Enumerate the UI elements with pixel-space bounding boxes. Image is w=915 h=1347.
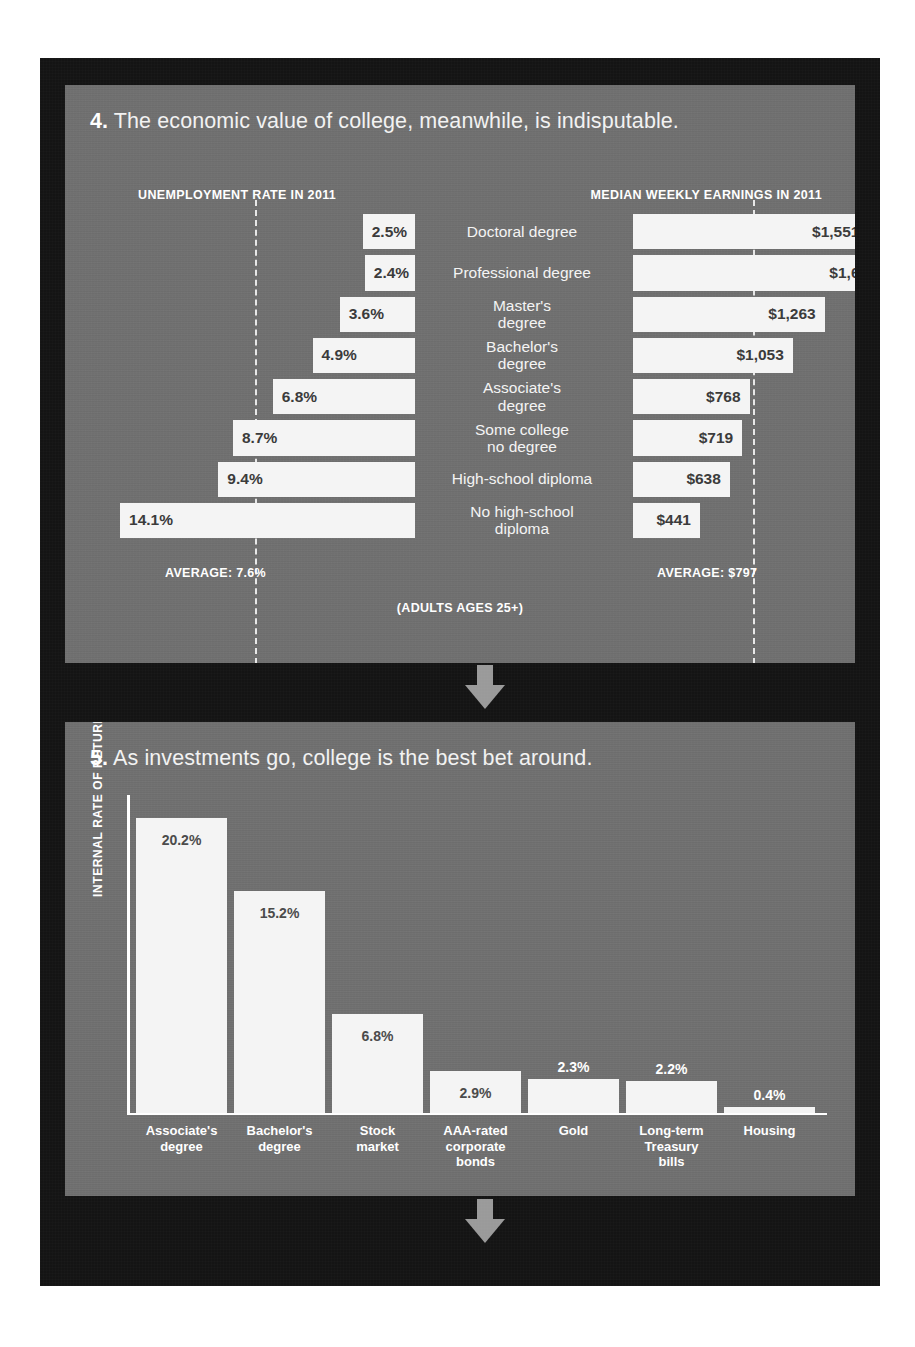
down-arrow-icon (465, 665, 505, 709)
unemployment-value: 4.9% (322, 346, 357, 364)
unemployment-value: 8.7% (242, 429, 277, 447)
chart-column: 20.2% (136, 795, 227, 1113)
x-axis-tick-label: AAA-ratedcorporatebonds (430, 1123, 521, 1170)
investment-returns-chart: 20.2%Associate'sdegree15.2%Bachelor'sdeg… (127, 795, 827, 1113)
return-value-label: 20.2% (136, 832, 227, 848)
x-axis-tick-label: Long-termTreasurybills (626, 1123, 717, 1170)
unemployment-average-label: AVERAGE: 7.6% (165, 566, 266, 580)
return-bar (528, 1079, 619, 1113)
return-value-label: 15.2% (234, 905, 325, 921)
unemployment-value: 2.5% (372, 223, 407, 241)
return-bar (724, 1107, 815, 1113)
unemployment-bar: 3.6% (340, 297, 415, 332)
education-comparison-chart: 2.5%Doctoral degree$1,5512.4%Professiona… (65, 211, 855, 541)
y-axis-line (127, 795, 130, 1113)
arrow-shaft (477, 1199, 493, 1221)
chart-row: 14.1%No high-schooldiploma$441 (65, 500, 855, 541)
earnings-value: $441 (656, 511, 690, 529)
x-axis-line (127, 1113, 827, 1115)
panel4-title: 4. The economic value of college, meanwh… (90, 109, 679, 134)
earnings-bar: $768 (633, 379, 750, 414)
return-value-label: 2.9% (430, 1085, 521, 1101)
unemployment-value: 6.8% (282, 388, 317, 406)
x-axis-tick-label: Associate'sdegree (136, 1123, 227, 1154)
category-label: Master'sdegree (415, 294, 629, 335)
earnings-column-header: MEDIAN WEEKLY EARNINGS IN 2011 (591, 188, 822, 202)
unemployment-column-header: UNEMPLOYMENT RATE IN 2011 (138, 188, 336, 202)
down-arrow-icon (465, 1199, 505, 1243)
panel-education-value: 4. The economic value of college, meanwh… (65, 85, 855, 663)
category-label: Bachelor'sdegree (415, 335, 629, 376)
return-value-label: 2.3% (528, 1059, 619, 1075)
panel4-number: 4. (90, 109, 108, 133)
earnings-bar: $638 (633, 462, 730, 497)
earnings-value: $638 (686, 470, 720, 488)
category-label: No high-schooldiploma (415, 500, 629, 541)
earnings-bar: $441 (633, 503, 700, 538)
earnings-bar: $1,263 (633, 297, 825, 332)
chart-column: 2.9% (430, 795, 521, 1113)
earnings-value: $1,053 (736, 346, 783, 364)
chart-row: 9.4%High-school diploma$638 (65, 459, 855, 500)
unemployment-value: 3.6% (349, 305, 384, 323)
chart-column: 6.8% (332, 795, 423, 1113)
earnings-bar: $719 (633, 420, 742, 455)
earnings-value: $1,551 (812, 223, 855, 241)
unemployment-bar: 6.8% (273, 379, 415, 414)
unemployment-bar: 2.4% (365, 255, 415, 290)
chart-column: 2.2% (626, 795, 717, 1113)
panel-investment-returns: 5. As investments go, college is the bes… (65, 722, 855, 1196)
panel4-footnote: (ADULTS AGES 25+) (65, 601, 855, 615)
panel5-title-text: As investments go, college is the best b… (113, 746, 592, 770)
unemployment-bar: 9.4% (218, 462, 415, 497)
return-bar (626, 1081, 717, 1113)
chart-row: 3.6%Master'sdegree$1,263 (65, 294, 855, 335)
earnings-value: $768 (706, 388, 740, 406)
category-label: High-school diploma (415, 459, 629, 500)
unemployment-value: 2.4% (374, 264, 409, 282)
category-label: Associate'sdegree (415, 376, 629, 417)
chart-row: 8.7%Some collegeno degree$719 (65, 417, 855, 458)
return-value-label: 0.4% (724, 1087, 815, 1103)
category-label: Professional degree (415, 252, 629, 293)
unemployment-bar: 14.1% (120, 503, 415, 538)
chart-column: 2.3% (528, 795, 619, 1113)
x-axis-tick-label: Bachelor'sdegree (234, 1123, 325, 1154)
chart-row: 2.4%Professional degree$1,665 (65, 252, 855, 293)
arrow-head (465, 1219, 505, 1243)
chart-row: 2.5%Doctoral degree$1,551 (65, 211, 855, 252)
earnings-bar: $1,665 (633, 255, 855, 290)
earnings-average-label: AVERAGE: $797 (657, 566, 757, 580)
arrow-head (465, 685, 505, 709)
unemployment-value: 14.1% (129, 511, 173, 529)
return-value-label: 6.8% (332, 1028, 423, 1044)
category-label: Doctoral degree (415, 211, 629, 252)
earnings-value: $1,263 (768, 305, 815, 323)
unemployment-bar: 2.5% (363, 214, 415, 249)
panel5-title: 5. As investments go, college is the bes… (90, 746, 593, 771)
unemployment-bar: 8.7% (233, 420, 415, 455)
unemployment-value: 9.4% (227, 470, 262, 488)
x-axis-tick-label: Gold (528, 1123, 619, 1139)
arrow-shaft (477, 665, 493, 687)
unemployment-bar: 4.9% (313, 338, 416, 373)
return-value-label: 2.2% (626, 1061, 717, 1077)
earnings-value: $1,665 (829, 264, 855, 282)
y-axis-label: INTERNAL RATE OF RETURN (91, 722, 105, 897)
earnings-bar: $1,551 (633, 214, 855, 249)
chart-column: 15.2% (234, 795, 325, 1113)
chart-column: 0.4% (724, 795, 815, 1113)
chart-row: 6.8%Associate'sdegree$768 (65, 376, 855, 417)
return-bar (234, 891, 325, 1113)
panel4-title-text: The economic value of college, meanwhile… (114, 109, 679, 133)
poster-frame: 4. The economic value of college, meanwh… (40, 58, 880, 1286)
x-axis-tick-label: Housing (724, 1123, 815, 1139)
chart-row: 4.9%Bachelor'sdegree$1,053 (65, 335, 855, 376)
category-label: Some collegeno degree (415, 417, 629, 458)
x-axis-tick-label: Stockmarket (332, 1123, 423, 1154)
earnings-bar: $1,053 (633, 338, 793, 373)
earnings-value: $719 (699, 429, 733, 447)
return-bar (136, 818, 227, 1113)
